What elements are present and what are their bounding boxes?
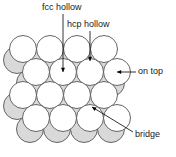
atom-top-layer — [23, 59, 50, 86]
atom-top-layer — [91, 36, 118, 63]
atom-top-layer — [91, 82, 118, 109]
atom-top-layer — [10, 36, 37, 63]
label-on-top: on top — [138, 66, 163, 76]
label-fcc-hollow: fcc hollow — [42, 2, 82, 12]
atom-top-layer — [64, 36, 91, 63]
label-hcp-hollow: hcp hollow — [67, 19, 110, 29]
atom-top-layer — [37, 36, 64, 63]
atom-top-layer — [77, 105, 104, 132]
atom-top-layer — [10, 82, 37, 109]
atom-top-layer — [104, 105, 131, 132]
atom-top-layer — [64, 82, 91, 109]
top-layer-atoms — [10, 36, 131, 132]
label-bridge: bridge — [135, 129, 160, 139]
atom-top-layer — [77, 59, 104, 86]
atom-top-layer — [37, 82, 64, 109]
atom-top-layer — [23, 105, 50, 132]
atom-top-layer — [50, 105, 77, 132]
